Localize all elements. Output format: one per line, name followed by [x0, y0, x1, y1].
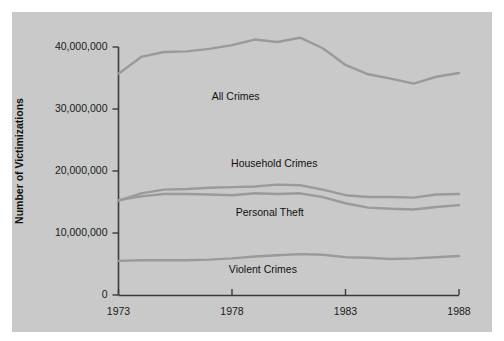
- x-axis-tick-label: 1983: [316, 305, 376, 317]
- data-series-lines: [119, 38, 460, 261]
- y-axis-tick-label: 10,000,000: [0, 226, 108, 238]
- series-line: [119, 254, 460, 261]
- series-label-violent-crimes: Violent Crimes: [203, 263, 323, 275]
- chart-figure: Number of Victimizations 010,000,00020,0…: [0, 0, 504, 341]
- y-axis-ticks: [113, 47, 119, 295]
- y-axis-tick-label: 40,000,000: [0, 40, 108, 52]
- series-label-personal-theft: Personal Theft: [210, 206, 330, 218]
- x-axis-tick-label: 1978: [202, 305, 262, 317]
- x-axis-ticks: [119, 289, 460, 295]
- y-axis-tick-label: 20,000,000: [0, 164, 108, 176]
- x-axis-tick-label: 1988: [429, 305, 489, 317]
- y-axis-tick-label: 0: [0, 288, 108, 300]
- x-axis-tick-label: 1973: [89, 305, 149, 317]
- series-label-all-crimes: All Crimes: [176, 90, 296, 102]
- series-label-household-crimes: Household Crimes: [214, 157, 334, 169]
- series-line: [119, 38, 460, 84]
- y-axis-tick-label: 30,000,000: [0, 102, 108, 114]
